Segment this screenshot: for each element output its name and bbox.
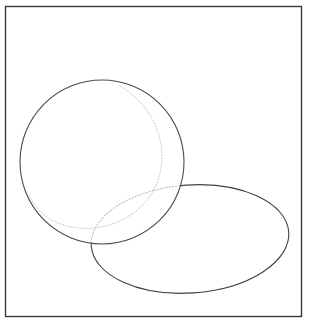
circle-fill xyxy=(20,80,184,244)
geometry-figure-svg xyxy=(0,0,309,324)
figure-container xyxy=(0,0,309,324)
